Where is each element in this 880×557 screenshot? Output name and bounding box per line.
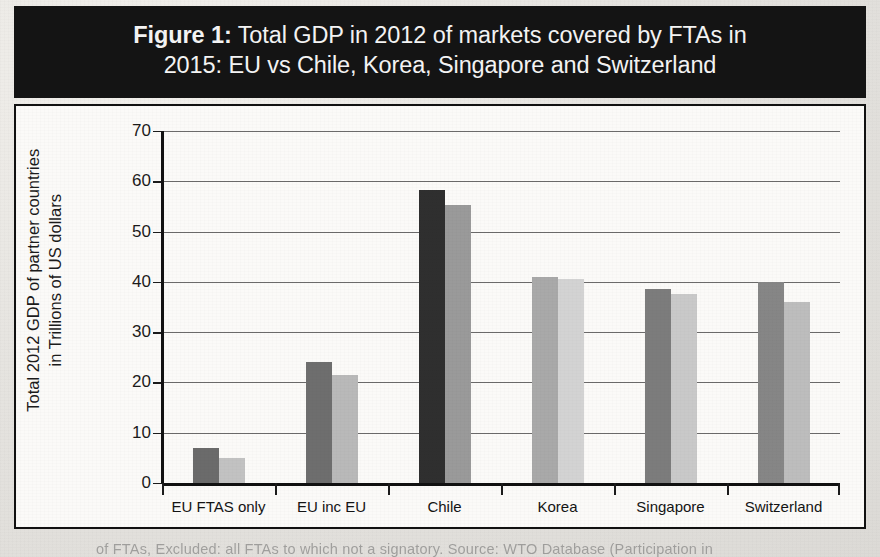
- x-tick-label-switzerland: Switzerland: [727, 498, 840, 515]
- scanned-page: Figure 1: Total GDP in 2012 of markets c…: [0, 0, 880, 557]
- x-tick-label-eu-inc-eu: EU inc EU: [275, 498, 388, 515]
- bar-group-chile: [388, 131, 501, 483]
- y-axis-title: Total 2012 GDP of partner countries in T…: [22, 115, 67, 445]
- bar-eu-inc-eu-series-2: [332, 375, 358, 483]
- bar-singapore-series-1: [645, 289, 671, 483]
- x-tick-mark-1: [275, 483, 277, 495]
- bar-groups: [162, 131, 840, 483]
- x-tick-label-singapore: Singapore: [614, 498, 727, 515]
- bar-group-eu-ftas-only: [162, 131, 275, 483]
- x-tick-mark-0: [162, 483, 164, 495]
- y-tick-label-10: 10: [132, 423, 151, 443]
- bar-singapore-series-2: [671, 294, 697, 483]
- y-axis-title-line2: in Trillions of US dollars: [44, 115, 66, 445]
- x-tick-mark-2: [388, 483, 390, 495]
- bar-eu-inc-eu-series-1: [306, 362, 332, 483]
- bar-switzerland-series-2: [784, 302, 810, 483]
- x-tick-label-korea: Korea: [501, 498, 614, 515]
- bar-korea-series-1: [532, 277, 558, 483]
- page-caption-partial: of FTAs, Excluded: all FTAs to which not…: [96, 541, 856, 557]
- bar-chile-series-1: [419, 190, 445, 483]
- y-tick-label-40: 40: [132, 272, 151, 292]
- bar-group-singapore: [614, 131, 727, 483]
- x-axis-labels: EU FTAS onlyEU inc EUChileKoreaSingapore…: [162, 498, 840, 515]
- figure-title-line1: Total GDP in 2012 of markets covered by …: [238, 22, 747, 48]
- x-tick-label-eu-ftas-only: EU FTAS only: [162, 498, 275, 515]
- plot-area: 010203040506070: [162, 131, 840, 483]
- figure-title-line2: 2015: EU vs Chile, Korea, Singapore and …: [133, 50, 746, 80]
- bar-eu-ftas-only-series-2: [219, 458, 245, 483]
- bar-group-switzerland: [727, 131, 840, 483]
- figure-title-bar: Figure 1: Total GDP in 2012 of markets c…: [14, 6, 866, 98]
- bar-group-eu-inc-eu: [275, 131, 388, 483]
- x-axis: EU FTAS onlyEU inc EUChileKoreaSingapore…: [162, 483, 840, 527]
- y-tick-label-50: 50: [132, 222, 151, 242]
- x-tick-mark-4: [614, 483, 616, 495]
- x-tick-label-chile: Chile: [388, 498, 501, 515]
- bar-switzerland-series-1: [758, 282, 784, 483]
- bar-eu-ftas-only-series-1: [193, 448, 219, 483]
- x-tick-mark-5: [727, 483, 729, 495]
- bar-chile-series-2: [445, 205, 471, 483]
- x-tick-mark-3: [501, 483, 503, 495]
- bar-group-korea: [501, 131, 614, 483]
- y-axis-title-line1: Total 2012 GDP of partner countries: [22, 115, 44, 445]
- x-tick-mark-end: [838, 483, 840, 495]
- chart-frame: Total 2012 GDP of partner countries in T…: [14, 104, 866, 529]
- y-tick-mark-0: [153, 483, 162, 484]
- y-tick-label-20: 20: [132, 372, 151, 392]
- figure-label: Figure 1:: [133, 22, 231, 48]
- bar-korea-series-2: [558, 279, 584, 483]
- y-tick-label-60: 60: [132, 171, 151, 191]
- y-tick-label-0: 0: [142, 473, 151, 493]
- y-tick-label-30: 30: [132, 322, 151, 342]
- y-tick-label-70: 70: [132, 121, 151, 141]
- figure-title: Figure 1: Total GDP in 2012 of markets c…: [133, 20, 746, 80]
